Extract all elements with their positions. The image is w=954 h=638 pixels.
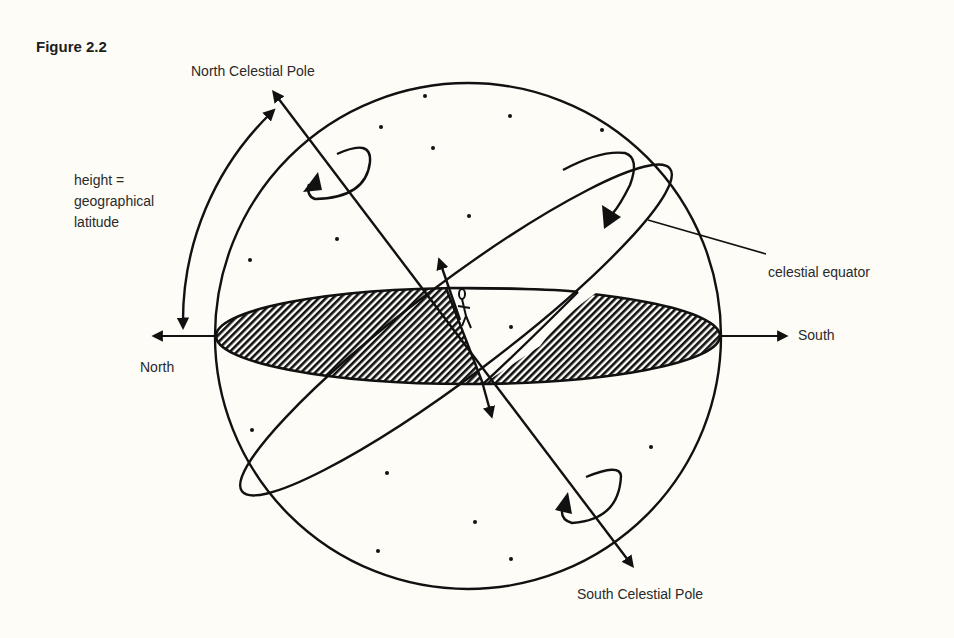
celestial-sphere-diagram	[0, 0, 954, 638]
south-celestial-pole-label: South Celestial Pole	[577, 584, 703, 605]
celestial-equator-label: celestial equator	[768, 262, 870, 283]
equator-leader-line	[648, 220, 766, 254]
horizon-plane	[216, 288, 720, 384]
north-celestial-pole-label: North Celestial Pole	[191, 61, 315, 82]
nadir-arrow	[483, 385, 491, 414]
north-label: North	[140, 357, 174, 378]
height-latitude-label: height = geographical latitude	[74, 170, 154, 233]
height-label-line2: geographical	[74, 191, 154, 212]
height-label-line1: height =	[74, 170, 154, 191]
latitude-arc	[183, 112, 272, 325]
height-label-line3: latitude	[74, 212, 154, 233]
equator-rotation-arrow	[563, 153, 634, 229]
south-label: South	[798, 325, 835, 346]
